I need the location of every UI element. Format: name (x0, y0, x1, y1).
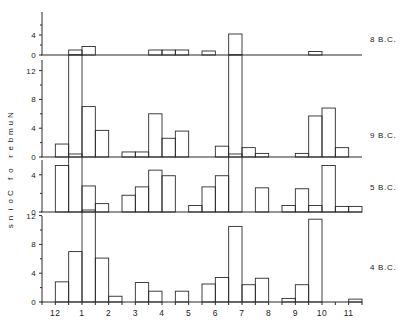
y-tick-label: 4 (31, 269, 36, 278)
histogram-bar (282, 205, 295, 212)
y-axis-title-char: i (6, 209, 15, 211)
x-tick-label: 1 (79, 308, 84, 318)
histogram-bar (69, 154, 82, 212)
x-tick-label: 8 (266, 308, 271, 318)
y-axis-title-char: C (6, 190, 15, 196)
y-axis-title-char: r (6, 155, 15, 158)
y-axis-title-char: e (6, 145, 15, 150)
x-tick-label: 6 (213, 308, 218, 318)
histogram-bar (69, 55, 82, 157)
histogram-bar (82, 47, 95, 56)
histogram-bar (295, 153, 308, 157)
histogram-bar (202, 51, 215, 55)
histogram-bar (309, 52, 322, 56)
histogram-bar (242, 285, 255, 302)
histogram-bar (95, 204, 108, 212)
histogram-bar (255, 188, 268, 212)
x-tick-label: 7 (239, 308, 244, 318)
x-axis: 121234567891011 (42, 302, 362, 318)
histogram-bar (189, 205, 202, 212)
y-tick-label: 4 (31, 124, 36, 133)
panel-label-1: 8 B.C. (370, 35, 396, 44)
y-tick-label: 12 (26, 67, 36, 76)
y-tick-label: 0 (31, 153, 36, 162)
coin-histogram-figure: NumberofCoins 04048120404812 12123456789… (0, 0, 412, 330)
panel-4: 04812 (26, 210, 362, 307)
y-tick-label: 4 (31, 171, 36, 180)
y-axis-title-char: s (6, 224, 15, 228)
y-axis-title-char: u (6, 121, 15, 125)
panel-labels: 8 B.C.9 B.C.5 B.C.4 B.C. (370, 35, 396, 272)
histogram-bar (122, 195, 135, 212)
histogram-bar (149, 50, 162, 55)
histogram-bar (309, 205, 322, 212)
y-tick-label: 0 (31, 298, 36, 307)
y-axis-title-char: n (6, 216, 15, 220)
histogram-bar (69, 50, 82, 55)
histogram-bar (295, 189, 308, 212)
histogram-bar (175, 291, 188, 302)
panel-2: 04812 (26, 55, 362, 162)
histogram-bar (215, 146, 228, 157)
histogram-bar (149, 114, 162, 157)
y-tick-label: 8 (31, 95, 36, 104)
histogram-bar (95, 130, 108, 157)
histogram-bar (229, 55, 242, 157)
histogram-bar (122, 152, 135, 157)
histogram-bar (295, 285, 308, 302)
histogram-bar (349, 206, 362, 212)
histogram-bar (322, 166, 335, 213)
histogram-bar (309, 116, 322, 157)
y-axis-title-char: b (6, 137, 15, 142)
histogram-bar (82, 210, 95, 302)
panels-group: 04048120404812 (26, 12, 362, 307)
histogram-bar (162, 50, 175, 55)
histogram-bar (175, 131, 188, 157)
histogram-bar (175, 50, 188, 55)
histogram-bar (229, 226, 242, 302)
x-tick-label: 2 (106, 308, 111, 318)
histogram-bar (229, 34, 242, 55)
histogram-bar (322, 108, 335, 157)
histogram-bar (55, 144, 68, 157)
x-tick-label: 3 (133, 308, 138, 318)
histogram-bar (109, 296, 122, 302)
y-tick-label: 0 (31, 51, 36, 60)
y-axis-title-char: N (6, 112, 15, 118)
x-tick-label: 11 (344, 308, 354, 318)
panel-1: 04 (31, 12, 362, 60)
histogram-bar (202, 187, 215, 212)
panel-label-2: 9 B.C. (370, 131, 396, 140)
histogram-bar (162, 176, 175, 212)
y-axis-title-char: f (6, 177, 15, 180)
y-axis-title-char: o (6, 199, 15, 204)
histogram-bar (349, 299, 362, 302)
y-tick-label: 12 (26, 212, 36, 221)
histogram-bar (135, 187, 148, 212)
y-axis-title-char: m (6, 128, 15, 135)
histogram-bar (335, 148, 348, 157)
histogram-bar (82, 186, 95, 212)
histogram-bar (202, 284, 215, 302)
histogram-bar (55, 166, 68, 213)
histogram-bar (282, 298, 295, 302)
panel-label-3: 5 B.C. (370, 183, 396, 192)
y-tick-label: 4 (31, 31, 36, 40)
histogram-bar (149, 170, 162, 212)
histogram-bar (255, 278, 268, 302)
histogram-bar (69, 252, 82, 302)
x-tick-label: 9 (293, 308, 298, 318)
panel-3: 04 (31, 154, 362, 217)
x-tick-label: 10 (317, 308, 328, 318)
histogram-bar (255, 153, 268, 157)
histogram-bar (229, 154, 242, 212)
histogram-bar (162, 138, 175, 157)
histogram-bar (242, 148, 255, 157)
x-tick-label: 12 (50, 308, 61, 318)
x-tick-label: 4 (159, 308, 164, 318)
histogram-bar (149, 291, 162, 302)
histogram-bar (95, 258, 108, 302)
y-axis-title-char: o (6, 168, 15, 173)
histogram-bar (309, 219, 322, 302)
histogram-bar (215, 278, 228, 302)
